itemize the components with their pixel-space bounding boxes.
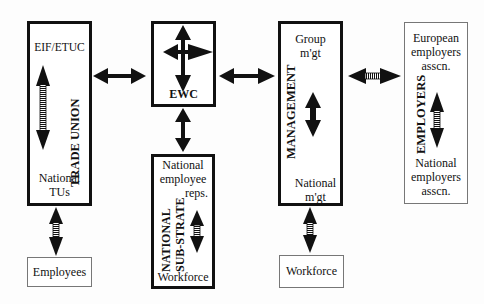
ewc-management-arrow: [219, 68, 275, 84]
trade-union-internal-arrow: [36, 65, 50, 150]
arrows-layer: [0, 0, 484, 304]
management-workforce-arrow: [303, 207, 317, 253]
tu-ewc-arrow: [93, 68, 146, 84]
ewc-cross-arrow: [163, 25, 213, 92]
employers-internal-arrow: [430, 92, 444, 148]
substrate-internal-arrow: [190, 210, 204, 253]
ewc-substrate-arrow: [175, 108, 191, 152]
management-employers-arrow: [348, 68, 401, 84]
management-internal-arrow: [305, 92, 321, 137]
tu-employees-arrow: [49, 207, 63, 256]
